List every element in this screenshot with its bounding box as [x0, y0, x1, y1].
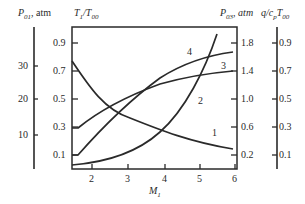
q-tick: 0.7 — [279, 66, 292, 76]
p03-axis-label: P03, atm — [220, 8, 253, 22]
t1-tick: 0.9 — [53, 38, 66, 48]
q-tick: 0.3 — [279, 122, 292, 132]
p01-tick: 20 — [18, 94, 28, 104]
x-axis-label: M1 — [149, 186, 161, 200]
x-tick: 4 — [162, 174, 167, 184]
curve-label-1: 1 — [212, 128, 217, 138]
curve-label-2: 2 — [198, 96, 203, 106]
t1-tick: 0.1 — [53, 150, 66, 160]
curve-2 — [72, 34, 217, 165]
chart-canvas — [0, 0, 305, 204]
x-tick: 3 — [125, 174, 130, 184]
curve-4 — [72, 52, 233, 155]
p01-tick: 30 — [18, 61, 28, 71]
x-tick: 5 — [197, 174, 202, 184]
t1-axis-label: T1/T00 — [74, 8, 98, 22]
x-tick: 2 — [89, 174, 94, 184]
curve-label-3: 3 — [221, 61, 226, 71]
curve-label-4: 4 — [187, 47, 192, 57]
q-tick: 0.9 — [279, 38, 292, 48]
t1-tick: 0.5 — [53, 94, 66, 104]
p01-tick: 10 — [18, 130, 28, 140]
p03-tick: 1.0 — [241, 94, 254, 104]
p03-tick: 1.8 — [241, 38, 254, 48]
t1-tick: 0.3 — [53, 122, 66, 132]
p01-axis-label: P01, atm — [18, 8, 51, 22]
p03-tick: 1.4 — [241, 66, 254, 76]
x-tick: 6 — [232, 174, 237, 184]
q-axis-label: q/cpT00 — [261, 8, 289, 22]
t1-tick: 0.7 — [53, 66, 66, 76]
q-tick: 0.1 — [279, 150, 292, 160]
curve-3 — [72, 71, 233, 128]
q-tick: 0.5 — [279, 94, 292, 104]
p03-tick: 0.6 — [241, 122, 254, 132]
p03-tick: 0.2 — [241, 150, 254, 160]
